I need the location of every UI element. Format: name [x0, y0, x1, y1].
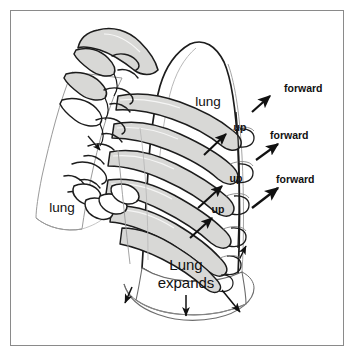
lung-expansion-figure: lung lung Lung expands up up up forward …	[0, 0, 356, 358]
forward-arrows	[252, 96, 278, 208]
label-lung-left: lung	[49, 200, 75, 215]
label-up-2: up	[230, 172, 243, 184]
label-lung-expands-line1: Lung	[169, 256, 202, 273]
label-up-3: up	[212, 203, 225, 215]
label-forward-1: forward	[284, 82, 323, 94]
label-up-1: up	[234, 121, 247, 133]
label-forward-2: forward	[270, 129, 309, 141]
forward-arrow	[252, 96, 270, 112]
forward-arrow	[252, 188, 278, 208]
label-lung-right: lung	[195, 94, 221, 109]
anatomy-diagram: lung lung Lung expands up up up forward …	[0, 0, 356, 358]
label-forward-3: forward	[276, 173, 315, 185]
label-lung-expands-line2: expands	[158, 274, 215, 291]
forward-arrow	[256, 144, 278, 160]
